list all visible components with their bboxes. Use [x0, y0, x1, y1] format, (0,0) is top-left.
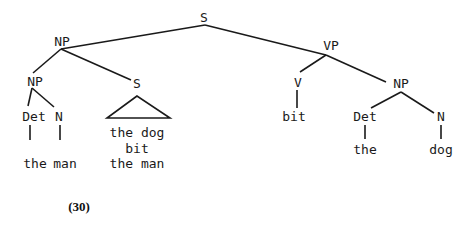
node-np-inner: NP [27, 74, 43, 89]
tree-nodes: S NP VP NP S Det N V NP Det N [22, 10, 445, 124]
edge-np-np [33, 49, 61, 73]
node-det-right: Det [353, 109, 376, 124]
leaf-bit: bit [282, 109, 305, 124]
edge-np-n-right [401, 92, 434, 113]
tree-leaves: the man the dog bit the man bit the dog [23, 109, 452, 171]
edge-vp-np [326, 55, 386, 82]
edge-np-det [28, 88, 32, 106]
leaf-dog-right: dog [429, 142, 452, 157]
node-v: V [294, 75, 302, 90]
figure-caption: (30) [68, 199, 90, 214]
syntax-tree-diagram: S NP VP NP S Det N V NP Det N the man th… [0, 0, 475, 226]
leaf-embedded-line1: the dog [110, 125, 165, 140]
node-n-right: N [437, 109, 445, 124]
edge-np-s [61, 49, 131, 80]
node-s-root: S [200, 10, 208, 25]
tree-svg: S NP VP NP S Det N V NP Det N the man th… [0, 0, 475, 226]
node-s-embedded: S [133, 76, 141, 91]
leaf-man-left: man [53, 156, 76, 171]
triangle-s-embedded [107, 96, 170, 118]
edge-vp-v [300, 55, 326, 72]
node-np-object: NP [393, 76, 409, 91]
edge-s-vp [205, 25, 326, 55]
node-det-left: Det [22, 109, 45, 124]
node-np-subject: NP [54, 34, 70, 49]
leaf-embedded-line3: the man [110, 156, 165, 171]
edge-s-np [61, 25, 205, 49]
tree-edges [28, 25, 441, 140]
node-n-left: N [55, 109, 63, 124]
edge-np-n [32, 88, 54, 107]
node-vp: VP [323, 38, 339, 53]
leaf-embedded-line2: bit [125, 141, 148, 156]
leaf-the-left: the [23, 156, 47, 171]
leaf-the-right: the [353, 142, 377, 157]
edge-np-det-right [371, 92, 401, 108]
